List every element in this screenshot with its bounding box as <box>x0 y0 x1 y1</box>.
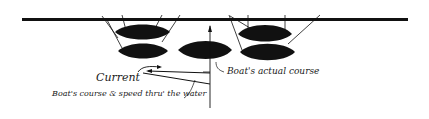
course-through-water-label: Boat's course & speed thru' the water <box>52 89 206 98</box>
boat-left-inner <box>115 25 170 40</box>
course-vector <box>143 73 210 84</box>
boat-right-outer <box>240 44 295 61</box>
heading-arrow <box>208 25 212 32</box>
current-label: Current <box>96 71 140 84</box>
approaching-boat <box>178 41 232 59</box>
current-vector <box>148 71 210 73</box>
docking-diagram <box>0 0 429 119</box>
boat-right-inner <box>238 25 292 42</box>
boat-left-outer <box>118 44 168 59</box>
dock <box>22 18 408 21</box>
actual-course-label: Boat's actual course <box>227 66 319 76</box>
actual-leader <box>216 62 224 72</box>
